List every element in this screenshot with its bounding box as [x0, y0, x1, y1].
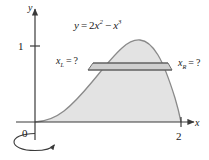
right-endpoint-label: xR=?: [178, 58, 200, 70]
x-axis-label: x: [195, 118, 199, 128]
region-under-curve: [35, 40, 181, 122]
left-endpoint-label: xL=?: [56, 56, 78, 68]
right-endpoint-equals: =: [188, 57, 194, 68]
y-tick-label-1: 1: [18, 41, 24, 52]
left-endpoint-equals: =: [66, 55, 72, 66]
equation-label: y=2x2−x3: [74, 19, 121, 31]
y-axis-label: y: [28, 3, 32, 13]
left-endpoint-subscript: L: [60, 61, 63, 68]
equation-lhs: y: [74, 19, 79, 31]
equation-term1-exponent: 2: [100, 18, 103, 25]
representative-strip: [88, 63, 172, 70]
equation-term2-exponent: 3: [118, 18, 121, 25]
origin-label: 0: [22, 128, 28, 139]
left-endpoint-value: ?: [74, 55, 78, 66]
x-tick-label-2: 2: [176, 131, 182, 142]
right-endpoint-value: ?: [196, 57, 200, 68]
calculus-figure: y=2x2−x3 y x 1 0 2 xL=? xR=?: [0, 0, 209, 160]
equation-minus: −: [105, 19, 111, 31]
axis-of-revolution-ellipse: [14, 134, 55, 151]
right-endpoint-subscript: R: [182, 63, 186, 70]
equation-equals: =: [81, 19, 87, 31]
